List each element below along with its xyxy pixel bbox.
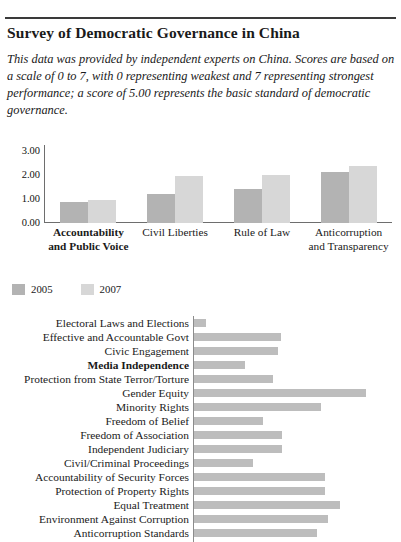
bar-groups [45, 145, 392, 223]
legend-item-2007: 2007 [81, 283, 122, 295]
bar-2005 [147, 194, 175, 223]
horizontal-bar-row: Freedom of Association [0, 428, 401, 442]
horizontal-bar-label: Environment Against Corruption [0, 512, 189, 526]
category-label-line: and Transparency [306, 240, 391, 254]
horizontal-bar [194, 501, 340, 509]
horizontal-bar-label: Effective and Accountable Govt [0, 330, 189, 344]
category-label: Anticorruption and Transparency [305, 226, 392, 254]
horizontal-bar-label: Gender Equity [0, 386, 189, 400]
bar-2007 [88, 200, 116, 223]
intro-paragraph: This data was provided by independent ex… [7, 51, 395, 119]
horizontal-bar [194, 347, 278, 355]
horizontal-bar [194, 459, 253, 467]
legend-swatch-icon [81, 284, 94, 295]
horizontal-bar-row: Protection of Property Rights [0, 484, 401, 498]
bar-group [132, 145, 219, 223]
horizontal-bar-label: Protection from State Terror/Torture [0, 372, 189, 386]
horizontal-bar-label: Freedom of Association [0, 428, 189, 442]
category-labels: Accountability and Public Voice Civil Li… [45, 226, 392, 254]
bar-2005 [60, 202, 88, 223]
horizontal-bar-label: Media Independence [0, 358, 189, 372]
horizontal-bar-label: Anticorruption Standards [0, 526, 189, 540]
category-label: Accountability and Public Voice [45, 226, 132, 254]
horizontal-bar-label: Protection of Property Rights [0, 484, 189, 498]
category-label-line: Accountability [46, 226, 131, 240]
horizontal-bar-label: Accountability of Security Forces [0, 470, 189, 484]
legend-swatch-icon [12, 284, 25, 295]
horizontal-bar [194, 361, 245, 369]
horizontal-bar-row: Media Independence [0, 358, 401, 372]
chart-legend: 2005 2007 [12, 283, 143, 295]
page-title: Survey of Democratic Governance in China [7, 24, 395, 42]
bar-2007 [262, 175, 290, 223]
horizontal-bar-row: Protection from State Terror/Torture [0, 372, 401, 386]
horizontal-bar-row: Anticorruption Standards [0, 526, 401, 540]
horizontal-bar-label: Civic Engagement [0, 344, 189, 358]
horizontal-bar-chart: Electoral Laws and ElectionsEffective an… [0, 316, 401, 542]
horizontal-bar-row: Minority Rights [0, 400, 401, 414]
bar-2007 [175, 176, 203, 223]
horizontal-bar-row: Electoral Laws and Elections [0, 316, 401, 330]
grouped-bar-chart: 3.00 2.00 1.00 0.00 [0, 140, 401, 300]
horizontal-bar-label: Civil/Criminal Proceedings [0, 456, 189, 470]
horizontal-bar-label: Electoral Laws and Elections [0, 316, 189, 330]
y-tick-label: 0.00 [4, 218, 40, 229]
document-page: Survey of Democratic Governance in China… [0, 0, 401, 542]
y-tick-label: 1.00 [4, 194, 40, 205]
bar-2007 [349, 166, 377, 223]
horizontal-bar-row: Civil/Criminal Proceedings [0, 456, 401, 470]
horizontal-bar [194, 375, 273, 383]
bar-group [219, 145, 306, 223]
category-label-line: Anticorruption [306, 226, 391, 240]
horizontal-bar-row: Civic Engagement [0, 344, 401, 358]
horizontal-bar-label: Equal Treatment [0, 498, 189, 512]
horizontal-bar [194, 417, 263, 425]
horizontal-bar [194, 487, 325, 495]
horizontal-bar-row: Effective and Accountable Govt [0, 330, 401, 344]
horizontal-bar-rows: Electoral Laws and ElectionsEffective an… [0, 316, 401, 540]
horizontal-bar-row: Gender Equity [0, 386, 401, 400]
y-axis-ticks: 3.00 2.00 1.00 0.00 [0, 140, 40, 230]
legend-label: 2005 [31, 283, 53, 295]
horizontal-bar [194, 389, 366, 397]
horizontal-bar [194, 333, 281, 341]
horizontal-bar [194, 445, 282, 453]
horizontal-bar-label: Independent Judiciary [0, 442, 189, 456]
horizontal-bar [194, 473, 325, 481]
bar-group [45, 145, 132, 223]
category-label: Rule of Law [219, 226, 306, 254]
horizontal-bar-row: Environment Against Corruption [0, 512, 401, 526]
y-tick-label: 3.00 [4, 146, 40, 157]
header-divider [5, 17, 396, 19]
category-label-line: Rule of Law [220, 226, 305, 240]
horizontal-bar [194, 319, 206, 327]
horizontal-bar [194, 403, 321, 411]
category-label: Civil Liberties [132, 226, 219, 254]
horizontal-bar-label: Minority Rights [0, 400, 189, 414]
header-block: Survey of Democratic Governance in China… [7, 24, 395, 119]
category-label-line: Civil Liberties [133, 226, 218, 240]
bar-group [305, 145, 392, 223]
horizontal-bar-row: Accountability of Security Forces [0, 470, 401, 484]
bar-2005 [234, 189, 262, 223]
y-tick-label: 2.00 [4, 170, 40, 181]
legend-label: 2007 [100, 283, 122, 295]
horizontal-bar [194, 515, 328, 523]
horizontal-bar-row: Independent Judiciary [0, 442, 401, 456]
horizontal-bar-row: Freedom of Belief [0, 414, 401, 428]
horizontal-bar-row: Equal Treatment [0, 498, 401, 512]
category-label-line: and Public Voice [46, 240, 131, 254]
horizontal-bar [194, 529, 317, 537]
bar-2005 [321, 172, 349, 223]
horizontal-bar [194, 431, 282, 439]
legend-item-2005: 2005 [12, 283, 53, 295]
horizontal-bar-label: Freedom of Belief [0, 414, 189, 428]
